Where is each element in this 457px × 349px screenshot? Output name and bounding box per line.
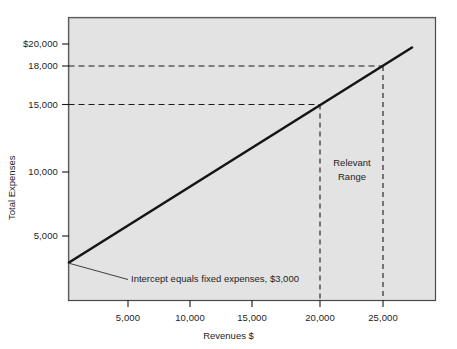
y-tick-label-20000: $20,000: [0, 38, 58, 49]
y-axis-title-wrapper: Total Expenses: [6, 120, 20, 220]
x-tick-label-25000: 25,000: [353, 312, 413, 323]
annotation-intercept-note: Intercept equals fixed expenses, $3,000: [131, 273, 299, 284]
y-tick-label-15000: 15,000: [0, 99, 58, 110]
y-axis-title: Total Expenses: [6, 156, 17, 220]
cost-behavior-chart: $20,000 18,000 15,000 10,000 5,000 5,000…: [0, 0, 457, 349]
x-tick-label-20000: 20,000: [290, 312, 350, 323]
x-tick-label-10000: 10,000: [160, 312, 220, 323]
annotation-relevant-range-line1: Relevant: [313, 157, 391, 168]
y-tick-label-5000: 5,000: [0, 230, 58, 241]
x-tick-label-15000: 15,000: [222, 312, 282, 323]
x-tick-label-5000: 5,000: [98, 312, 158, 323]
x-axis-title: Revenues $: [0, 330, 457, 341]
annotation-relevant-range-line2: Range: [313, 171, 391, 182]
y-tick-label-18000: 18,000: [0, 60, 58, 71]
